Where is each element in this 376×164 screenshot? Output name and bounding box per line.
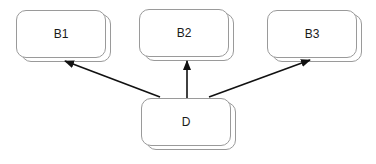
edge-d-to-b3-arrow: [209, 60, 310, 97]
edge-d-to-b1-arrow: [65, 61, 160, 97]
edges-layer: [0, 0, 376, 164]
